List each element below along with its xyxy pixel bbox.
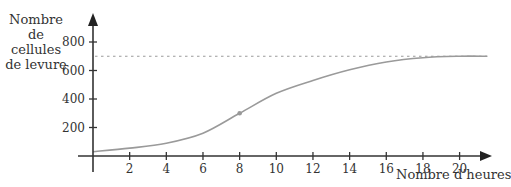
x-tick-label: 16 xyxy=(379,162,394,176)
x-tick-label: 10 xyxy=(269,162,284,176)
x-tick-label: 4 xyxy=(162,162,170,176)
x-tick-label: 6 xyxy=(199,162,207,176)
y-tick-label: 600 xyxy=(62,64,85,78)
x-axis-arrow-icon xyxy=(480,151,492,161)
inflection-point xyxy=(237,111,242,116)
axes xyxy=(78,13,492,172)
data-curve xyxy=(93,56,487,152)
y-tick-label: 800 xyxy=(62,35,85,49)
x-tick-label: 12 xyxy=(305,162,320,176)
x-tick-label: 8 xyxy=(236,162,244,176)
x-tick-label: 18 xyxy=(415,162,430,176)
x-tick-label: 2 xyxy=(126,162,134,176)
y-tick-label: 200 xyxy=(62,121,85,135)
y-tick-label: 400 xyxy=(62,92,85,106)
x-tick-label: 20 xyxy=(452,162,467,176)
yeast-growth-curve xyxy=(93,56,487,152)
y-axis-arrow-icon xyxy=(88,13,98,26)
x-tick-label: 14 xyxy=(342,162,358,176)
